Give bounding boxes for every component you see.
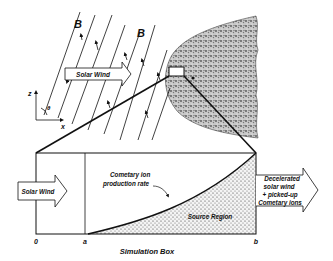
- comet-coma: [165, 16, 258, 138]
- svg-text:Decelerated solar wind: Decelerated solar wind + picked-up Comet…: [258, 175, 302, 207]
- tick-a-label: a: [83, 238, 87, 245]
- tick-0-label: 0: [34, 238, 38, 245]
- axis-x-label: x: [60, 123, 66, 130]
- curve-label: Cometary ion production rate: [102, 171, 152, 188]
- nucleus-icon: [191, 76, 194, 79]
- svg-text:Solar Wind: Solar Wind: [22, 188, 55, 195]
- field-label-b2: B: [137, 27, 145, 39]
- caption: Simulation Box: [120, 247, 175, 256]
- projection-line-left: [36, 76, 169, 153]
- field-label-b1: B: [74, 18, 82, 30]
- svg-text:Solar Wind: Solar Wind: [76, 71, 111, 78]
- angle-theta-label: θ: [47, 105, 51, 111]
- simulation-box-diagram: B B Solar Wind z x θ Cometary ion produc…: [0, 0, 333, 261]
- simulation-box: [36, 153, 256, 234]
- simulation-region-marker: [169, 67, 184, 76]
- axis-z-label: z: [27, 90, 32, 97]
- source-region: [88, 153, 256, 234]
- outflow-arrow: Decelerated solar wind + picked-up Comet…: [256, 168, 318, 212]
- tick-b-label: b: [254, 238, 259, 245]
- source-region-label: Source Region: [188, 213, 233, 221]
- upper-solar-wind-arrow: Solar Wind: [65, 62, 131, 86]
- inflow-solar-wind-arrow: Solar Wind: [18, 175, 67, 207]
